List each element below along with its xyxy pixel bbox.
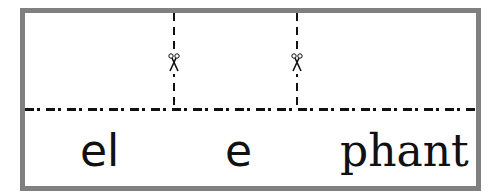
syllable-1: el (80, 124, 119, 178)
syllable-3: phant (340, 124, 469, 178)
scissors-icon (290, 52, 304, 74)
scissors-icon (167, 52, 181, 74)
word-card: el e phant (20, 8, 481, 191)
syllable-2: e (225, 124, 252, 178)
horizontal-cut-line (25, 108, 476, 111)
